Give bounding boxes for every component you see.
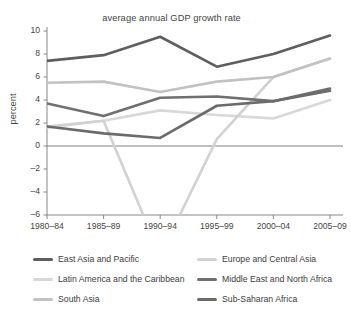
legend-swatch-icon (197, 278, 217, 281)
legend-item[interactable]: Middle East and North Africa (197, 269, 332, 289)
y-tick-label: 4 (14, 94, 40, 104)
legend-column-left: East Asia and PacificLatin America and t… (33, 249, 185, 309)
legend-label: Latin America and the Caribbean (58, 274, 185, 284)
x-tick-label: 1990–94 (134, 221, 186, 231)
chart-legend: East Asia and PacificLatin America and t… (0, 249, 343, 311)
x-tick-label: 1980–84 (21, 221, 73, 231)
y-tick-label: –6 (14, 209, 40, 219)
x-tick-label: 2005–09 (304, 221, 351, 231)
legend-item[interactable]: East Asia and Pacific (33, 249, 185, 269)
legend-column-right: Europe and Central AsiaMiddle East and N… (197, 249, 332, 309)
y-tick-label: 2 (14, 117, 40, 127)
legend-swatch-icon (197, 258, 217, 261)
y-tick-label: 10 (14, 25, 40, 35)
legend-item[interactable]: Sub-Saharan Africa (197, 289, 332, 309)
legend-label: Middle East and North Africa (222, 274, 332, 284)
legend-swatch-icon (33, 278, 53, 281)
x-tick-label: 1985–89 (78, 221, 130, 231)
y-tick-label: –4 (14, 186, 40, 196)
y-tick-label: 8 (14, 48, 40, 58)
series-line (47, 59, 330, 92)
legend-swatch-icon (33, 258, 53, 261)
legend-item[interactable]: Latin America and the Caribbean (33, 269, 185, 289)
plot-area (0, 0, 343, 245)
legend-label: East Asia and Pacific (58, 254, 139, 264)
y-tick-label: 0 (14, 140, 40, 150)
y-tick-label: –2 (14, 163, 40, 173)
legend-swatch-icon (197, 298, 217, 301)
x-tick-label: 1995–99 (191, 221, 243, 231)
legend-item[interactable]: Europe and Central Asia (197, 249, 332, 269)
x-tick-label: 2000–04 (247, 221, 299, 231)
series-line (47, 36, 330, 67)
legend-label: South Asia (58, 294, 100, 304)
legend-label: Sub-Saharan Africa (222, 294, 297, 304)
legend-label: Europe and Central Asia (222, 254, 316, 264)
legend-item[interactable]: South Asia (33, 289, 185, 309)
legend-swatch-icon (33, 298, 53, 301)
y-tick-label: 6 (14, 71, 40, 81)
